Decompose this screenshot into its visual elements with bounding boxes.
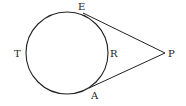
label-a: A <box>90 90 99 101</box>
label-r: R <box>110 48 118 59</box>
label-p: P <box>168 48 175 59</box>
circle <box>26 12 108 94</box>
tangent-segment-ap <box>89 53 165 88</box>
label-e: E <box>78 1 85 12</box>
label-t: T <box>14 48 21 59</box>
tangent-segment-ep <box>83 13 165 53</box>
geometry-diagram: E T R P A <box>0 0 186 106</box>
